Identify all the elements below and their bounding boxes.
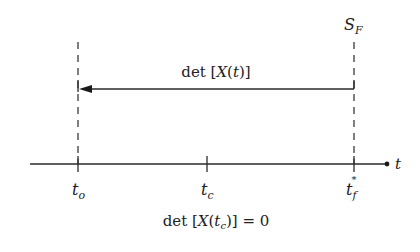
axis-end-dot-icon xyxy=(385,162,390,167)
tick-label-t-f-star: tf* xyxy=(346,174,358,202)
tick-label-t-o: to xyxy=(72,180,85,202)
condition-label: det [X(tc)] = 0 xyxy=(163,212,270,231)
timeline-diagram: SF det [X(t)] t to tc tf* det [X(tc)] = … xyxy=(0,0,420,252)
surface-label: SF xyxy=(344,15,363,37)
axis-label: t xyxy=(395,155,402,173)
arrow-head-icon xyxy=(79,85,92,93)
arrow-label: det [X(t)] xyxy=(181,63,250,81)
tick-label-t-c: tc xyxy=(201,180,214,202)
